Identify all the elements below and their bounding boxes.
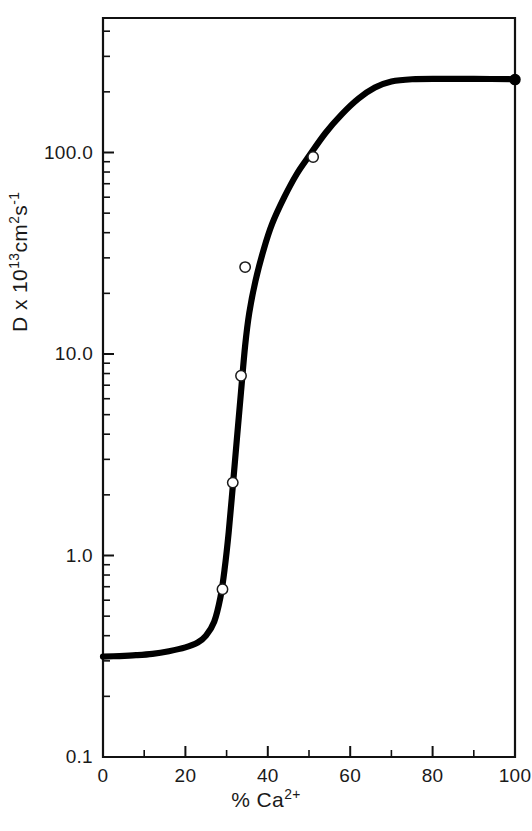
data-point-open [217,584,227,594]
x-tick-label: 80 [422,765,444,787]
x-axis-ticks [103,746,515,757]
data-point-open [236,371,246,381]
plot-area [0,0,532,831]
y-axis-ticks [103,31,114,757]
y-tick-label: 0.1 [0,746,93,768]
fitted-curve [103,79,515,657]
y-axis-label: D x 1013cm2s-1 [8,102,32,332]
axis-frame [103,18,515,757]
x-tick-label: 60 [339,765,361,787]
y-tick-label: 1.0 [0,545,93,567]
figure-container: 0.11.010.0100.0 020406080100 D x 1013cm2… [0,0,532,831]
x-tick-label: 40 [257,765,279,787]
x-axis-label-superscript: 2+ [284,786,301,802]
x-tick-label: 100 [499,765,532,787]
x-axis-label-prefix: % Ca [231,788,284,811]
x-tick-label: 20 [175,765,197,787]
data-point-markers [217,75,520,595]
x-axis-label: % Ca2+ [0,788,532,812]
data-point-filled [510,75,520,85]
data-point-open [308,152,318,162]
y-tick-label: 10.0 [0,343,93,365]
data-point-open [240,262,250,272]
x-tick-label: 0 [98,765,109,787]
data-point-open [228,477,238,487]
